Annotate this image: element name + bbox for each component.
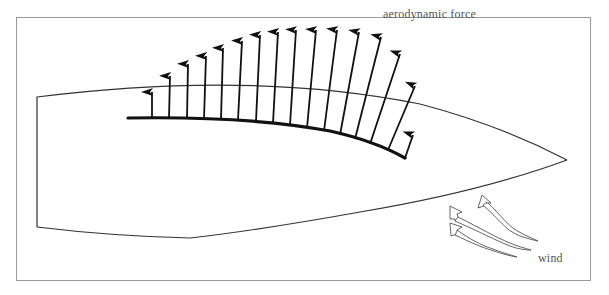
force-arrow-icon xyxy=(221,48,223,119)
force-arrow-icon xyxy=(256,35,260,121)
force-arrow-icon xyxy=(204,56,206,119)
sail-foot xyxy=(128,118,405,158)
aerodynamic-force-arrows xyxy=(152,30,415,158)
force-arrow-icon xyxy=(340,32,359,135)
wind-arrows xyxy=(450,195,538,257)
force-arrow-icon xyxy=(324,30,337,131)
aerodynamic-force-label: aerodynamic force xyxy=(383,7,476,22)
force-arrow-icon xyxy=(238,41,242,120)
wind-label: wind xyxy=(538,251,563,266)
force-arrow-icon xyxy=(187,64,188,118)
hull-outline xyxy=(37,85,567,238)
force-arrow-icon xyxy=(307,30,316,128)
sail-force-diagram xyxy=(0,0,609,295)
force-arrow-icon xyxy=(290,30,296,125)
force-arrow-icon xyxy=(169,76,170,118)
force-arrow-icon xyxy=(405,135,413,158)
force-arrow-icon xyxy=(273,32,278,123)
